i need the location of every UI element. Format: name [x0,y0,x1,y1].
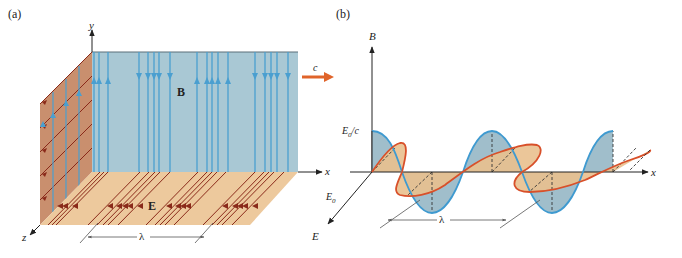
b-field-label: B [177,85,185,99]
lambda-label: λ [139,230,145,242]
y-axis-label: y [88,19,94,31]
b-axis-label: B [369,30,376,42]
velocity-arrowhead [324,72,334,82]
lambda-tick-left [80,223,98,243]
panel-b: (b) B E0/c x E E0 [311,7,656,242]
e-field-label: E [148,199,156,213]
e-axis-label: E [311,230,319,242]
z-axis [30,225,40,235]
panel-a: (a) [8,7,334,243]
z-axis-label: z [21,231,27,243]
x-axis-label: x [324,165,330,177]
b-plane [92,52,298,172]
panel-b-label: (b) [336,7,350,21]
e-amplitude-label: E0 [325,191,336,205]
x-axis-b-label: x [650,166,656,178]
velocity-label: c [313,62,318,73]
lambda-tick-right [195,223,213,243]
lambda-b-tick-left [380,200,420,228]
panel-a-label: (a) [8,7,21,21]
em-wave-figure: (a) [0,0,682,258]
b-amplitude-label: E0/c [341,125,359,139]
lambda-b-label: λ [439,213,445,225]
lambda-b-tick-right [500,200,540,228]
